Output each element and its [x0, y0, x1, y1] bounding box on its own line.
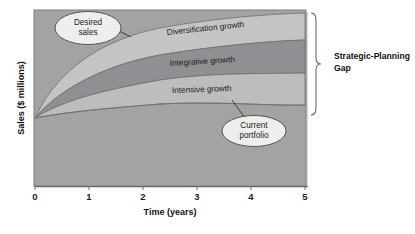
gap-label-line1: Strategic-Planning: [334, 51, 410, 61]
x-tick-label-4: 4: [248, 191, 254, 202]
y-axis-title: Sales ($ millions): [16, 61, 26, 135]
x-tick-label-3: 3: [194, 191, 199, 202]
callout-desired-sales-line1: Desired: [74, 18, 103, 27]
chart-canvas: Diversification growth Integrative growt…: [0, 0, 415, 234]
x-tick-label-1: 1: [86, 191, 92, 202]
callout-desired-sales-line2: sales: [78, 28, 97, 37]
callout-current-portfolio-line1: Current: [240, 121, 268, 130]
x-tick-label-5: 5: [302, 191, 308, 202]
x-axis-title: Time (years): [144, 207, 197, 217]
x-tick-label-2: 2: [140, 191, 145, 202]
strategic-planning-gap-figure: Diversification growth Integrative growt…: [0, 0, 415, 234]
gap-label-line2: Gap: [334, 63, 351, 73]
x-tick-label-0: 0: [32, 191, 37, 202]
callout-current-portfolio-line2: portfolio: [239, 131, 269, 140]
